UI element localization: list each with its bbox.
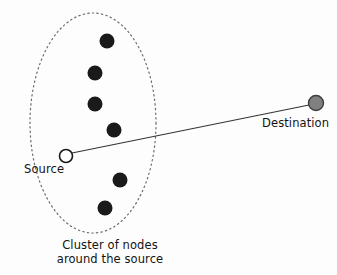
cluster-node <box>113 173 128 188</box>
source-node <box>60 150 73 163</box>
cluster-node <box>98 201 113 216</box>
cluster-node <box>88 97 103 112</box>
network-diagram-figure: Source Destination Cluster of nodes arou… <box>0 0 337 275</box>
cluster-node <box>100 34 115 49</box>
cluster-nodes-group <box>88 34 128 216</box>
cluster-boundary-ellipse <box>30 13 156 233</box>
cluster-caption: Cluster of nodes around the source <box>0 238 220 266</box>
cluster-node <box>107 123 122 138</box>
cluster-node <box>88 66 103 81</box>
cluster-caption-line-2: around the source <box>0 252 220 266</box>
diagram-canvas <box>0 0 337 275</box>
destination-node <box>309 96 324 111</box>
destination-label: Destination <box>262 116 329 130</box>
source-label: Source <box>24 162 64 176</box>
cluster-caption-line-1: Cluster of nodes <box>0 238 220 252</box>
